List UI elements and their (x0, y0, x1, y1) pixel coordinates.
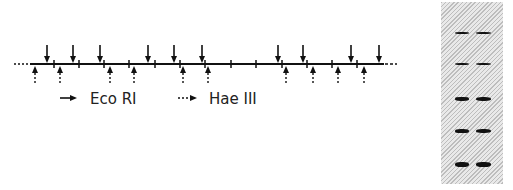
gel-band (455, 129, 469, 133)
hae-iii-arrow-icon (205, 66, 211, 84)
gel-image (441, 2, 503, 184)
gel-band (476, 63, 491, 66)
dotted-arrow-icon (178, 95, 197, 101)
hae-iii-arrow-icon (361, 66, 367, 84)
hae-iii-arrow-icon (283, 66, 289, 84)
solid-arrow-icon (60, 95, 77, 101)
gel-band (476, 162, 491, 167)
hae-iii-arrow-icon (32, 66, 38, 84)
hae-iii-arrow-icon (107, 66, 113, 84)
eco-ri-arrow-icon (199, 45, 205, 63)
hae-iii-sites (32, 66, 367, 84)
gel-band (476, 97, 491, 101)
eco-ri-arrow-icon (70, 45, 76, 63)
eco-ri-arrow-icon (97, 45, 103, 63)
eco-ri-arrow-icon (348, 45, 354, 63)
restriction-map: Eco RI Hae III (0, 0, 440, 190)
hae-iii-arrow-icon (180, 66, 186, 84)
gel-band (455, 97, 469, 101)
eco-ri-arrow-icon (44, 45, 50, 63)
legend: Eco RI Hae III (60, 90, 257, 108)
eco-ri-arrow-icon (145, 45, 151, 63)
hae-iii-arrow-icon (131, 66, 137, 84)
gel-band (455, 63, 469, 66)
hae-iii-arrow-icon (310, 66, 316, 84)
eco-ri-arrow-icon (300, 45, 306, 63)
hae-iii-arrow-icon (335, 66, 341, 84)
eco-ri-arrow-icon (275, 45, 281, 63)
gel-band (476, 129, 491, 133)
hae-iii-arrow-icon (57, 66, 63, 84)
gel-band (455, 32, 469, 34)
eco-ri-arrow-icon (171, 45, 177, 63)
gel-band (455, 162, 469, 167)
legend-label-eco-ri: Eco RI (90, 90, 137, 108)
eco-ri-arrow-icon (376, 45, 382, 63)
legend-label-hae-iii: Hae III (209, 90, 257, 108)
gel-band (476, 32, 491, 34)
